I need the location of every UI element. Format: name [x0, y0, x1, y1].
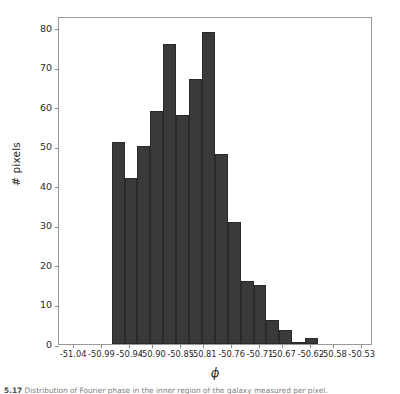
y-tick-label: 0	[46, 339, 52, 350]
y-tick-label: 60	[40, 102, 52, 113]
histogram-bar	[254, 285, 267, 344]
histogram-bar	[112, 142, 125, 344]
histogram-bar	[292, 342, 305, 344]
histogram-bar	[305, 338, 318, 344]
y-tick-mark	[55, 306, 59, 307]
x-tick-mark	[361, 344, 362, 348]
x-tick-mark	[180, 344, 181, 348]
y-tick-mark	[55, 346, 59, 347]
histogram-bar	[150, 111, 163, 344]
x-tick-label: -51.04	[60, 349, 87, 359]
x-tick-mark	[101, 344, 102, 348]
y-tick-mark	[55, 108, 59, 109]
x-tick-label: -50.67	[269, 349, 296, 359]
histogram-bar	[125, 178, 138, 344]
x-tick-mark	[129, 344, 130, 348]
y-tick-mark	[55, 69, 59, 70]
x-tick-label: -50.53	[348, 349, 375, 359]
histogram-bar	[228, 222, 241, 345]
x-tick-label: -50.81	[190, 349, 217, 359]
y-tick-label: 10	[40, 299, 52, 310]
x-tick-label: -50.58	[320, 349, 347, 359]
caption-number: 5.17	[4, 386, 22, 394]
x-tick-mark	[152, 344, 153, 348]
histogram-bar	[176, 115, 189, 344]
histogram-bar	[137, 146, 150, 344]
histogram-bar	[163, 44, 176, 344]
y-tick-mark	[55, 187, 59, 188]
y-axis-label: # pixels	[9, 0, 23, 328]
x-tick-mark	[231, 344, 232, 348]
x-tick-mark	[310, 344, 311, 348]
figure-caption: 5.17 Distribution of Fourier phase in th…	[4, 386, 400, 394]
y-tick-mark	[55, 266, 59, 267]
caption-text: Distribution of Fourier phase in the inn…	[25, 386, 328, 394]
histogram-bar	[241, 281, 254, 344]
x-axis-label: ϕ	[58, 366, 372, 380]
x-tick-mark	[203, 344, 204, 348]
y-tick-mark	[55, 227, 59, 228]
y-tick-label: 20	[40, 260, 52, 271]
x-tick-mark	[333, 344, 334, 348]
x-tick-label: -50.90	[139, 349, 166, 359]
y-tick-label: 70	[40, 62, 52, 73]
histogram-bar	[202, 32, 215, 344]
histogram-bar	[279, 330, 292, 344]
histogram-bar	[189, 79, 202, 344]
y-tick-mark	[55, 29, 59, 30]
histogram-plot-area: 01020304050607080 -51.04-50.99-50.94-50.…	[58, 17, 372, 345]
x-tick-mark	[259, 344, 260, 348]
y-tick-label: 40	[40, 181, 52, 192]
y-tick-label: 80	[40, 23, 52, 34]
histogram-bars	[59, 18, 371, 344]
x-tick-mark	[73, 344, 74, 348]
y-tick-mark	[55, 148, 59, 149]
histogram-bar	[215, 154, 228, 344]
histogram-bar	[266, 320, 279, 344]
x-tick-label: -50.76	[218, 349, 245, 359]
x-tick-label: -50.99	[88, 349, 115, 359]
x-tick-mark	[282, 344, 283, 348]
figure-container: 01020304050607080 -51.04-50.99-50.94-50.…	[0, 0, 400, 394]
y-tick-label: 50	[40, 141, 52, 152]
y-tick-label: 30	[40, 220, 52, 231]
